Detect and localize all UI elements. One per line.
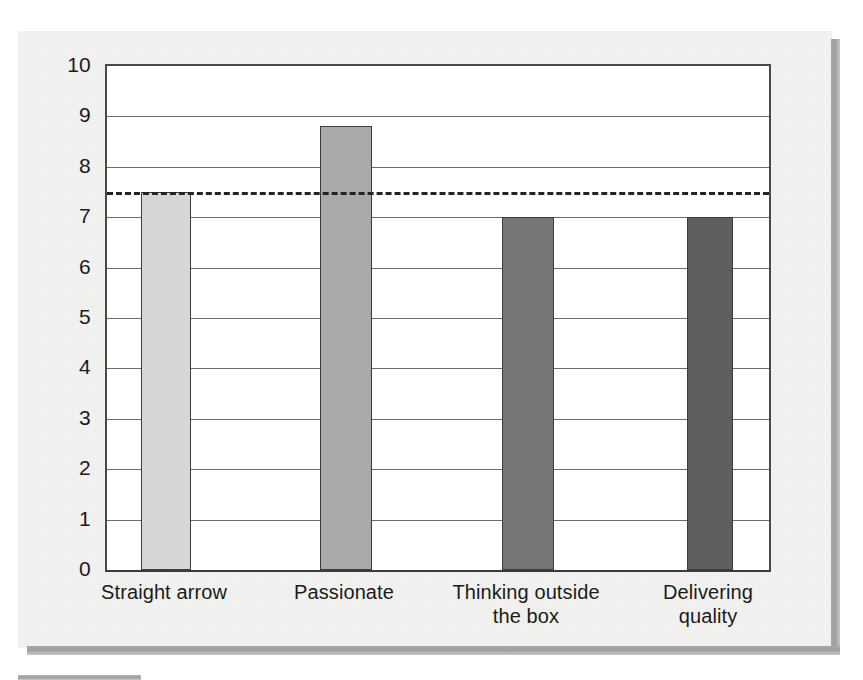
y-tick-label: 2: [49, 457, 91, 478]
gridline: [107, 116, 769, 117]
y-tick-label: 3: [49, 407, 91, 428]
gridline: [107, 520, 769, 521]
x-tick-label-line: Delivering: [598, 580, 818, 604]
reference-line-annotation: [107, 192, 769, 195]
gridline: [107, 368, 769, 369]
x-tick-label-line: quality: [598, 604, 818, 628]
bar: [687, 217, 733, 570]
y-tick-label: 10: [49, 54, 91, 75]
gridline: [107, 217, 769, 218]
gridline: [107, 419, 769, 420]
gridline: [107, 167, 769, 168]
bar: [502, 217, 554, 570]
gridline: [107, 318, 769, 319]
y-tick-label: 4: [49, 356, 91, 377]
y-tick-label: 1: [49, 508, 91, 529]
y-tick-label: 7: [49, 205, 91, 226]
y-tick-label: 6: [49, 256, 91, 277]
y-tick-label: 9: [49, 104, 91, 125]
gridline: [107, 268, 769, 269]
gridline: [107, 469, 769, 470]
y-tick-label: 8: [49, 155, 91, 176]
bar-chart: 109876543210 Straight arrowPassionateThi…: [0, 0, 863, 680]
plot-area: [105, 64, 771, 572]
y-tick-label: 0: [49, 558, 91, 579]
y-tick-label: 5: [49, 306, 91, 327]
bar: [141, 192, 191, 570]
x-tick-label: Deliveringquality: [598, 580, 818, 628]
